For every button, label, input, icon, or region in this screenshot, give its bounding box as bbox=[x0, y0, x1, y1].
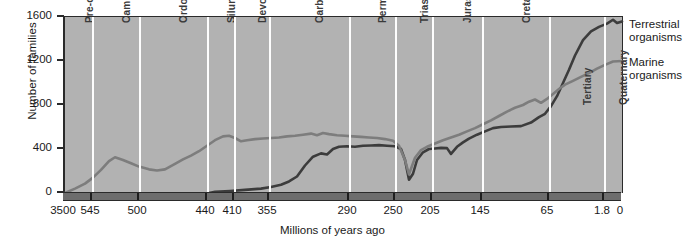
chart-figure: Number of families 160012008004000 Pre-c… bbox=[0, 0, 692, 248]
x-tick-290: 290 bbox=[337, 204, 356, 216]
period-label-jurassic: Jurassic bbox=[462, 0, 473, 23]
period-label-cretaceous: Cretaceous bbox=[521, 0, 532, 23]
geologic-time-band bbox=[63, 192, 621, 201]
x-tick-440: 440 bbox=[195, 204, 214, 216]
y-tick-mark bbox=[57, 103, 64, 105]
y-tick-0: 0 bbox=[18, 186, 52, 198]
legend-item-marine: Marineorganisms bbox=[629, 56, 682, 82]
x-tick-545: 545 bbox=[80, 204, 99, 216]
legend-label-line2: organisms bbox=[629, 69, 682, 82]
time-band-tick bbox=[393, 193, 395, 200]
series-marine bbox=[65, 61, 622, 193]
period-separator bbox=[349, 17, 351, 193]
legend-label-line1: Marine bbox=[629, 56, 682, 69]
time-band-tick bbox=[547, 193, 549, 200]
x-tick-205: 205 bbox=[420, 204, 439, 216]
period-separator bbox=[269, 17, 271, 193]
x-tick-145: 145 bbox=[470, 204, 489, 216]
time-band-tick bbox=[205, 193, 207, 200]
legend-item-terrestrial: Terrestrialorganisms bbox=[629, 18, 682, 44]
period-separator bbox=[139, 17, 141, 193]
y-tick-mark bbox=[57, 59, 64, 61]
period-label-triassic: Triassic bbox=[419, 0, 430, 23]
period-label-ordovician: Ordovician bbox=[178, 0, 189, 23]
y-tick-mark bbox=[57, 15, 64, 17]
time-band-tick bbox=[430, 193, 432, 200]
period-separator bbox=[432, 17, 434, 193]
time-band-tick bbox=[137, 193, 139, 200]
period-label-carboniferous: Carboniferous bbox=[314, 0, 325, 23]
x-tick-250: 250 bbox=[383, 204, 402, 216]
period-label-quaternary: Quaternary bbox=[618, 50, 629, 105]
legend-label-line1: Terrestrial bbox=[629, 18, 682, 31]
y-tick-800: 800 bbox=[18, 98, 52, 110]
period-label-devonian: Devonian bbox=[257, 0, 268, 23]
time-band-tick bbox=[480, 193, 482, 200]
y-tick-1600: 1600 bbox=[18, 10, 52, 22]
y-tick-mark bbox=[57, 191, 64, 193]
x-tick-500: 500 bbox=[127, 204, 146, 216]
time-band-tick bbox=[90, 193, 92, 200]
y-axis-tick-labels: 160012008004000 bbox=[18, 0, 52, 248]
x-tick-355: 355 bbox=[257, 204, 276, 216]
period-label-cambrian: Cambrian bbox=[121, 0, 132, 23]
period-separator bbox=[482, 17, 484, 193]
x-tick-410: 410 bbox=[222, 204, 241, 216]
plot-area: Pre-cambrianCambrianOrdovicianSilurianDe… bbox=[63, 16, 623, 193]
period-separator bbox=[395, 17, 397, 193]
x-axis-label: Millions of years ago bbox=[280, 224, 385, 236]
period-separator bbox=[234, 17, 236, 193]
x-tick-65: 65 bbox=[541, 204, 554, 216]
y-tick-mark bbox=[57, 147, 64, 149]
data-curves bbox=[65, 17, 622, 193]
x-tick-3500: 3500 bbox=[50, 204, 76, 216]
period-separator bbox=[207, 17, 209, 193]
period-separator bbox=[549, 17, 551, 193]
period-separator bbox=[604, 17, 606, 193]
x-tick-1.8: 1.8 bbox=[594, 204, 610, 216]
time-band-tick bbox=[267, 193, 269, 200]
period-label-permian: Permian bbox=[377, 0, 388, 23]
x-tick-0: 0 bbox=[617, 204, 623, 216]
period-label-tertiary: Tertiary bbox=[582, 67, 593, 105]
period-separator bbox=[92, 17, 94, 193]
y-tick-1200: 1200 bbox=[18, 54, 52, 66]
time-band-tick bbox=[232, 193, 234, 200]
legend-label-line2: organisms bbox=[629, 31, 682, 44]
y-tick-400: 400 bbox=[18, 142, 52, 154]
time-band-tick bbox=[347, 193, 349, 200]
time-band-tick bbox=[602, 193, 604, 200]
